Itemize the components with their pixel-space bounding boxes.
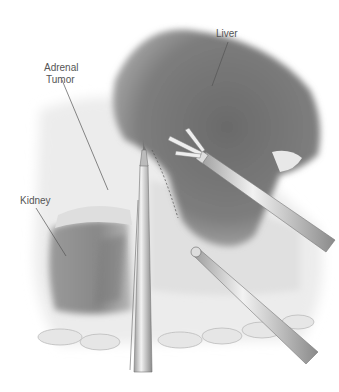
- label-kidney: Kidney: [20, 195, 51, 207]
- illustration-art: [0, 0, 339, 392]
- label-adrenal-tumor-line1: Adrenal: [44, 62, 78, 74]
- kidney-organ: [49, 206, 132, 314]
- label-adrenal-tumor-line2: Tumor: [46, 74, 75, 86]
- illustration: Liver Adrenal Tumor Kidney: [0, 0, 339, 392]
- label-liver: Liver: [216, 28, 238, 40]
